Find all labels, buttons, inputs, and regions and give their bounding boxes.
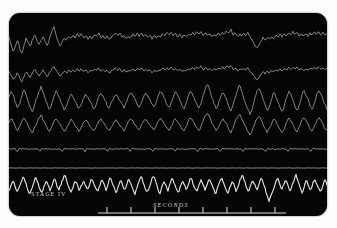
time-axis-label: SECONDS xyxy=(9,202,327,208)
eeg-channel-1 xyxy=(9,27,327,53)
ekg-channel xyxy=(9,148,327,152)
delta-wave-channel xyxy=(9,174,327,201)
polysomnogram-traces xyxy=(9,13,327,216)
eeg-channel-2 xyxy=(9,66,327,82)
time-axis-label-text: SECONDS xyxy=(147,202,188,208)
recording-panel: STAGE IV SECONDS xyxy=(9,13,327,216)
stage-label: STAGE IV xyxy=(31,191,66,197)
figure-root: STAGE IV SECONDS xyxy=(0,0,337,228)
eeg-channel-3 xyxy=(9,85,327,115)
eeg-channel-4 xyxy=(9,114,327,135)
channel-group xyxy=(9,27,327,202)
